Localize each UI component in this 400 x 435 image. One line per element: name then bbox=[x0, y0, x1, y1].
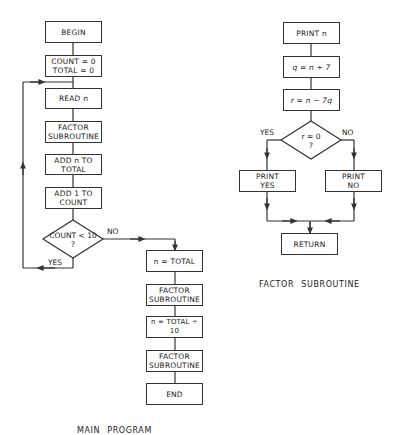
r-decision-text: r = 0 ? bbox=[291, 132, 331, 150]
print-n-box: PRINT n bbox=[283, 22, 340, 44]
print-yes-box: PRINT YES bbox=[239, 170, 296, 192]
return-box: RETURN bbox=[281, 233, 338, 255]
factor-subroutine-box-3: FACTOR SUBROUTINE bbox=[146, 350, 203, 372]
end-box: END bbox=[146, 383, 203, 405]
r-box: r = n − 7q bbox=[283, 89, 340, 111]
count-decision-text: COUNT < 10 ? bbox=[43, 231, 103, 249]
print-no-box: PRINT NO bbox=[325, 170, 382, 192]
factor-subroutine-box-1: FACTOR SUBROUTINE bbox=[45, 121, 102, 143]
add-total-box: ADD n TO TOTAL bbox=[45, 154, 102, 175]
init-box: COUNT = 0 TOTAL = 0 bbox=[45, 55, 102, 77]
n-equals-total-box: n = TOTAL bbox=[146, 250, 203, 272]
add-count-box: ADD 1 TO COUNT bbox=[45, 187, 102, 209]
decision-yes-label: YES bbox=[48, 259, 62, 267]
sub-decision-yes-label: YES bbox=[260, 129, 274, 137]
decision-no-label: NO bbox=[107, 228, 119, 236]
begin-box: BEGIN bbox=[45, 21, 102, 43]
q-box: q = n ÷ 7 bbox=[283, 56, 340, 78]
sub-decision-no-label: NO bbox=[342, 129, 354, 137]
main-program-caption: MAIN PROGRAM bbox=[77, 426, 152, 435]
factor-subroutine-box-2: FACTOR SUBROUTINE bbox=[146, 284, 203, 306]
read-box: READ n bbox=[45, 88, 102, 109]
factor-subroutine-caption: FACTOR SUBROUTINE bbox=[259, 280, 360, 289]
n-equals-total-div-box: n = TOTAL ÷ 10 bbox=[146, 316, 203, 338]
